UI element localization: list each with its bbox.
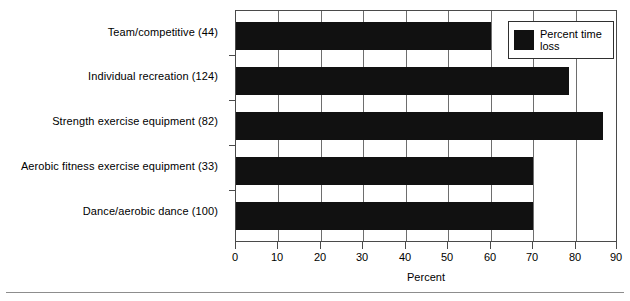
category-label-individual-recreation: Individual recreation (124)	[0, 70, 218, 82]
bar-individual-recreation[interactable]	[236, 67, 569, 95]
category-label-strength-exercise-equipment: Strength exercise equipment (82)	[0, 115, 218, 127]
legend[interactable]: Percent time loss	[508, 21, 614, 59]
x-axis-label-30: 30	[356, 251, 368, 264]
x-axis-tick-60	[490, 242, 491, 249]
category-label-team-competitive: Team/competitive (44)	[0, 26, 218, 38]
x-axis-label-80: 80	[569, 251, 581, 264]
x-axis-tick-80	[575, 242, 576, 249]
x-axis-label-60: 60	[484, 251, 496, 264]
x-axis-label-90: 90	[610, 251, 622, 264]
x-axis-tick-10	[277, 242, 278, 249]
bar-dance-aerobic-dance[interactable]	[236, 202, 533, 230]
x-axis-ticks	[235, 242, 617, 249]
x-axis-tick-20	[320, 242, 321, 249]
category-label-aerobic-fitness-equipment: Aerobic fitness exercise equipment (33)	[0, 160, 218, 172]
x-axis-label-40: 40	[399, 251, 411, 264]
x-axis-title: Percent	[235, 271, 617, 284]
x-axis-tick-70	[532, 242, 533, 249]
y-axis-tick-1	[229, 55, 236, 56]
x-axis-tick-40	[405, 242, 406, 249]
legend-swatch-percent-time-loss	[514, 30, 534, 50]
x-axis-label-20: 20	[314, 251, 326, 264]
bottom-divider	[6, 292, 624, 293]
x-axis-tick-labels: 0 10 20 30 40 50 60 70 80 90	[235, 251, 617, 265]
bar-chart-figure: Team/competitive (44) Individual recreat…	[0, 0, 630, 301]
x-axis-label-0: 0	[232, 251, 238, 264]
x-axis-label-50: 50	[441, 251, 453, 264]
x-axis-tick-0	[235, 242, 236, 249]
x-axis-label-10: 10	[271, 251, 283, 264]
x-axis-tick-30	[362, 242, 363, 249]
plot-area: Percent time loss	[235, 10, 617, 242]
x-axis-label-70: 70	[526, 251, 538, 264]
bar-strength-exercise-equipment[interactable]	[236, 112, 603, 140]
y-axis-tick-3	[229, 145, 236, 146]
bar-team-competitive[interactable]	[236, 22, 491, 50]
legend-label-percent-time-loss: Percent time loss	[540, 28, 608, 52]
bar-aerobic-fitness-equipment[interactable]	[236, 157, 533, 185]
category-label-dance-aerobic-dance: Dance/aerobic dance (100)	[0, 205, 218, 217]
x-axis-tick-90	[616, 242, 617, 249]
category-axis-labels: Team/competitive (44) Individual recreat…	[0, 10, 228, 242]
y-axis-tick-4	[229, 190, 236, 191]
y-axis-tick-2	[229, 100, 236, 101]
x-axis-tick-50	[447, 242, 448, 249]
